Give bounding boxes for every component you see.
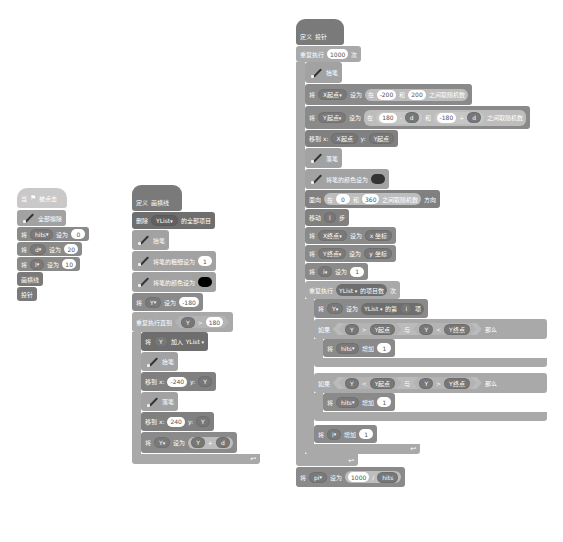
d-reporter[interactable]: d <box>216 437 230 448</box>
y-reporter[interactable]: Y <box>181 317 195 328</box>
script-main[interactable]: 当 ⚑ 被点击 全部擦除 将 hits 设为 0 将 d 设为 20 将 l 设… <box>17 188 89 302</box>
y-reporter[interactable]: Y <box>419 378 433 389</box>
when-flag-clicked-block[interactable]: 当 ⚑ 被点击 <box>17 188 67 208</box>
set-y-plus-d-block[interactable]: 将 Y 设为 Y + d <box>141 432 237 453</box>
change-hits-block[interactable]: 将 hits 增加 1 <box>323 393 395 411</box>
variable-dropdown[interactable]: pi <box>309 472 327 483</box>
variable-dropdown[interactable]: l <box>30 259 44 270</box>
less-than-condition[interactable]: Y < Y起点 <box>339 377 401 389</box>
set-l-block[interactable]: 将 l 设为 10 <box>17 257 80 271</box>
greater-than-condition[interactable]: Y > Y起点 <box>339 323 401 335</box>
repeat-header[interactable]: 重复执行 1000 次 <box>296 46 361 62</box>
value-input[interactable]: 10 <box>62 259 76 269</box>
variable-dropdown[interactable]: X终点 <box>318 230 347 241</box>
set-i-block[interactable]: 将 i 设为 1 <box>305 263 368 280</box>
repeat-1000-block[interactable]: 重复执行 1000 次 抬笔 将 X起点 设为 <box>296 46 558 466</box>
set-hits-block[interactable]: 将 hits 设为 0 <box>17 227 89 241</box>
value-input[interactable]: 1 <box>359 429 373 439</box>
l-reporter[interactable]: l <box>324 212 336 223</box>
define-draw-lines-block[interactable]: 定义 画横线 <box>132 185 182 211</box>
script-draw-lines[interactable]: 定义 画横线 删除 YList 的全部项目 抬笔 将笔的粗细设为 1 将笔的颜色… <box>132 185 262 464</box>
color-swatch[interactable] <box>371 174 385 184</box>
variable-dropdown[interactable]: i <box>327 429 341 440</box>
if-header[interactable]: 如果 Y < Y起点 与 <box>314 373 547 393</box>
point-in-direction-block[interactable]: 面向 在 0 和 360 之间取随机数 方向 <box>305 190 440 208</box>
pen-up-block[interactable]: 抬笔 <box>305 62 342 83</box>
add-operator[interactable]: Y + d <box>188 437 233 449</box>
add-to-list-block[interactable]: 将 Y 加入 YList <box>141 332 208 351</box>
value-input[interactable]: 180 <box>379 113 396 123</box>
random-operator[interactable]: 在 -200 和 200 之间取随机数 <box>365 89 468 101</box>
variable-dropdown[interactable]: i <box>318 266 332 277</box>
from-input[interactable]: 0 <box>336 194 350 204</box>
move-steps-block[interactable]: 移动 l 步 <box>305 209 349 226</box>
to-input[interactable]: 200 <box>408 90 425 100</box>
script-throw-needle[interactable]: 定义 投针 重复执行 1000 次 抬笔 <box>296 19 558 487</box>
greater-than-condition[interactable]: Y > Y终点 <box>413 377 475 389</box>
pen-up-block[interactable]: 抬笔 <box>141 352 178 371</box>
variable-dropdown[interactable]: Y起点 <box>318 112 346 123</box>
if-header[interactable]: 如果 Y > Y起点 与 <box>314 319 547 339</box>
x-position-reporter[interactable]: x 坐标 <box>365 230 392 241</box>
color-swatch[interactable] <box>198 277 212 287</box>
go-to-xy-block[interactable]: 移到 x: -240 y: Y <box>141 372 216 391</box>
x-input[interactable]: -240 <box>167 377 187 387</box>
value-input[interactable]: 20 <box>64 244 78 254</box>
list-dropdown[interactable]: YList <box>186 338 204 345</box>
list-dropdown[interactable]: YList <box>364 305 382 312</box>
set-x-start-block[interactable]: 将 X起点 设为 在 -200 和 200 之间取随机数 <box>305 84 472 105</box>
if-block-2[interactable]: 如果 Y < Y起点 与 <box>314 373 558 421</box>
pen-down-block[interactable]: 落笔 <box>305 148 342 168</box>
divide-operator[interactable]: 1000 / hits <box>345 471 401 483</box>
go-to-xy-block[interactable]: 移到 x: X起点 y: Y起点 <box>305 130 398 147</box>
set-y-block[interactable]: 将 Y 设为 -180 <box>132 293 203 311</box>
subtract-operator[interactable]: 180 - d <box>376 112 421 124</box>
repeat-header[interactable]: 重复执行 YList 的项目数 次 <box>305 281 400 299</box>
pen-down-block[interactable]: 落笔 <box>141 392 178 411</box>
define-throw-needle-block[interactable]: 定义 投针 <box>296 19 344 45</box>
variable-dropdown[interactable]: hits <box>336 397 359 408</box>
and-condition[interactable]: Y > Y起点 与 Y < <box>333 323 482 335</box>
value-input[interactable]: 0 <box>71 229 85 239</box>
y-position-reporter[interactable]: y 坐标 <box>364 248 391 259</box>
x-start-reporter[interactable]: X起点 <box>331 133 357 144</box>
call-draw-lines-block[interactable]: 画横线 <box>17 272 43 286</box>
set-pen-color-block[interactable]: 将笔的颜色设为 <box>305 169 389 189</box>
random-operator[interactable]: 在 0 和 360 之间取随机数 <box>324 193 421 205</box>
y-reporter[interactable]: Y <box>196 416 210 427</box>
value-input[interactable]: -180 <box>179 297 199 307</box>
set-x-end-block[interactable]: 将 X终点 设为 x 坐标 <box>305 227 396 244</box>
list-length-reporter[interactable]: YList 的项目数 <box>336 284 387 296</box>
y-reporter[interactable]: Y <box>154 336 168 347</box>
set-d-block[interactable]: 将 d 设为 20 <box>17 242 82 256</box>
variable-dropdown[interactable]: X起点 <box>318 89 347 100</box>
d-reporter[interactable]: d <box>467 112 481 123</box>
variable-dropdown[interactable]: hits <box>336 343 359 354</box>
set-y-end-block[interactable]: 将 Y终点 设为 y 坐标 <box>305 245 396 262</box>
random-operator[interactable]: 在 180 - d 和 -180 + d <box>364 110 526 126</box>
variable-dropdown[interactable]: Y终点 <box>318 248 346 259</box>
if-block-1[interactable]: 如果 Y > Y起点 与 <box>314 319 558 367</box>
set-pen-color-block[interactable]: 将笔的颜色设为 <box>132 272 216 292</box>
x-input[interactable]: 240 <box>167 417 184 427</box>
value-input[interactable]: 180 <box>206 317 223 327</box>
list-dropdown[interactable]: YList <box>151 215 178 226</box>
y-start-reporter[interactable]: Y起点 <box>370 324 396 335</box>
y-start-reporter[interactable]: Y起点 <box>370 378 396 389</box>
variable-dropdown[interactable]: d <box>30 244 46 255</box>
pen-up-block[interactable]: 抬笔 <box>132 230 169 250</box>
from-input[interactable]: -200 <box>377 90 397 100</box>
variable-dropdown[interactable]: hits <box>30 229 53 240</box>
and-condition[interactable]: Y < Y起点 与 Y > <box>333 377 482 389</box>
list-dropdown[interactable]: YList <box>339 287 357 294</box>
go-to-xy-block[interactable]: 移到 x: 240 y: Y <box>141 412 214 431</box>
y-start-reporter[interactable]: Y起点 <box>369 133 395 144</box>
hits-reporter[interactable]: hits <box>377 472 398 483</box>
y-reporter[interactable]: Y <box>345 378 359 389</box>
d-reporter[interactable]: d <box>405 112 419 123</box>
item-of-list-reporter[interactable]: YList 的第 i 项 <box>361 303 424 315</box>
delete-all-list-block[interactable]: 删除 YList 的全部项目 <box>132 212 215 229</box>
change-i-block[interactable]: 将 i 增加 1 <box>314 425 377 443</box>
value-input[interactable]: -180 <box>437 113 457 123</box>
variable-dropdown[interactable]: Y <box>154 437 170 448</box>
